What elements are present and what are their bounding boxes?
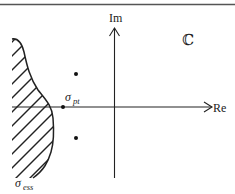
essential-spectrum-boundary bbox=[12, 39, 54, 178]
sigma-ess-sub: ess bbox=[23, 182, 34, 192]
sigma-pt-base: σ bbox=[65, 90, 72, 104]
spectrum-diagram: Im Re ℂ σ pt σ ess bbox=[0, 0, 235, 194]
essential-spectrum-region bbox=[0, 0, 110, 194]
eigenvalue-upper bbox=[74, 72, 78, 76]
real-axis-label: Re bbox=[213, 101, 226, 115]
complex-plane-label: ℂ bbox=[182, 32, 194, 48]
eigenvalue-real bbox=[61, 105, 65, 109]
sigma-pt-label: σ pt bbox=[65, 90, 80, 106]
imaginary-axis-label: Im bbox=[109, 11, 123, 25]
sigma-ess-label: σ ess bbox=[15, 176, 34, 192]
eigenvalue-lower bbox=[74, 136, 78, 140]
imaginary-axis bbox=[110, 28, 120, 178]
sigma-ess-base: σ bbox=[15, 176, 22, 190]
sigma-pt-sub: pt bbox=[72, 96, 80, 106]
